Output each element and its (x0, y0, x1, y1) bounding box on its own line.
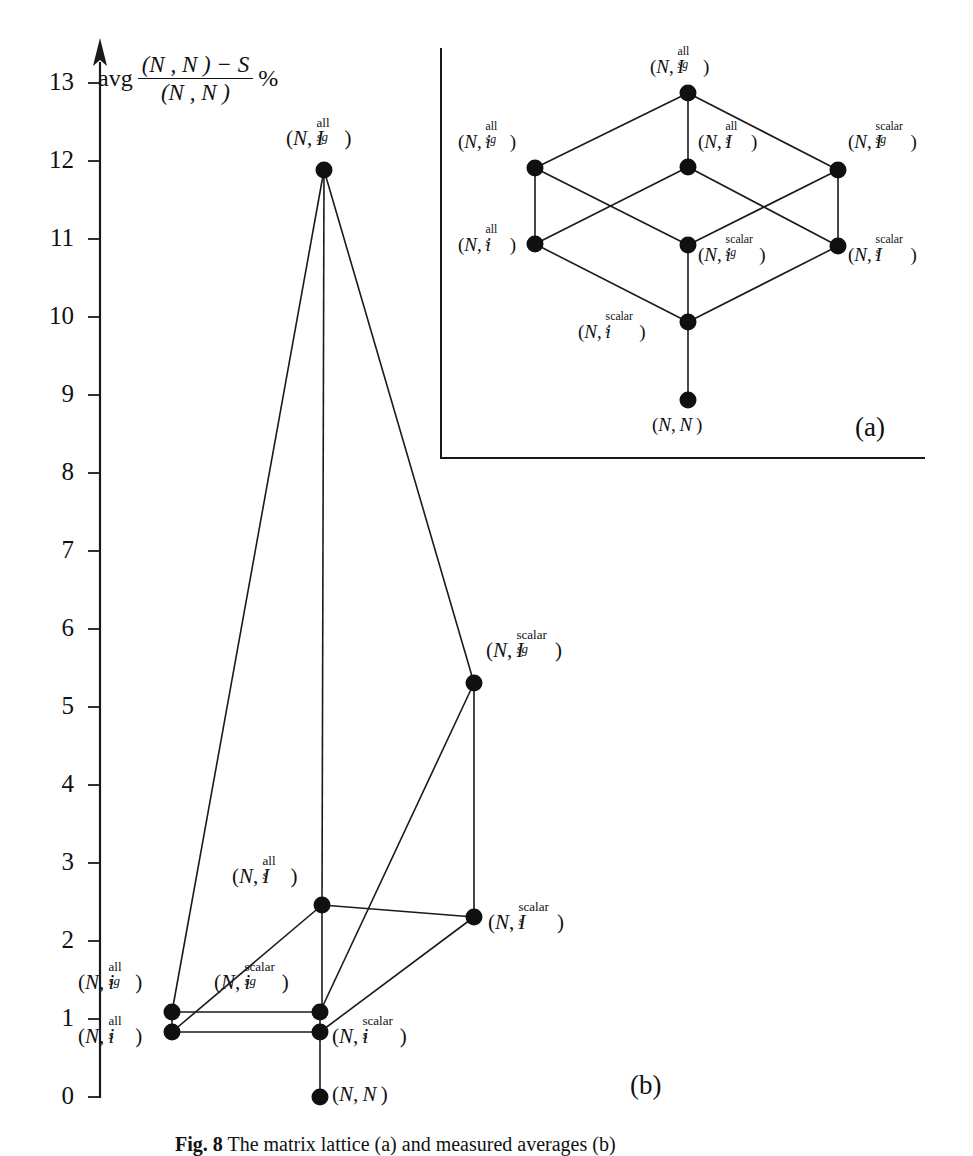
inset-label-i-sg-all: (N, iallsg ) (458, 132, 516, 151)
tick-label-3: 3 (34, 848, 74, 876)
node-I-sg-all (316, 162, 333, 179)
tick-label-2: 2 (34, 926, 74, 954)
tick-label-10: 10 (34, 302, 74, 330)
label-i-sg-all: (N, iallsg ) (78, 972, 142, 993)
inset-node-N-N (680, 392, 697, 409)
label-N-N-plot: (N, N ) (332, 1084, 388, 1105)
panel-label-b: (b) (630, 1070, 661, 1101)
label-i-s-scalar: (N, iscalars ) (332, 1026, 407, 1047)
inset-label-i-s-all: (N, ialls ) (458, 235, 516, 254)
inset-label-i-s-scalar: (N, iscalars ) (578, 322, 646, 341)
inset-label-N-N: (N, N ) (652, 415, 702, 434)
inset-node-I-sg-scalar (830, 162, 847, 179)
figure-caption: Fig. 8 The matrix lattice (a) and measur… (175, 1133, 875, 1156)
node-i-sg-all (164, 1004, 181, 1021)
inset-label-i-sg-scalar: (N, iscalarsg ) (698, 245, 766, 264)
inset-node-i-s-all (527, 236, 544, 253)
panel-label-a: (a) (855, 412, 885, 443)
y-axis-ticks (88, 83, 100, 1097)
node-I-sg-scalar (466, 675, 483, 692)
inset-label-I-s-scalar: (N, Iscalars ) (848, 245, 917, 264)
label-I-sg-scalar: (N, Iscalarsg ) (486, 640, 562, 661)
tick-label-13: 13 (34, 68, 74, 96)
tick-label-0: 0 (34, 1082, 74, 1110)
tick-label-8: 8 (34, 458, 74, 486)
label-I-s-all: (N, Ialls ) (232, 866, 297, 887)
inset-label-I-sg-scalar: (N, Iscalarsg ) (848, 132, 917, 151)
label-I-s-scalar: (N, Iscalars ) (488, 912, 564, 933)
axis-title-percent: % (258, 65, 278, 92)
axis-title-prefix: avg (98, 65, 133, 92)
y-axis-title: avg (N , N ) − S (N , N ) % (98, 52, 278, 106)
node-i-s-all (164, 1024, 181, 1041)
inset-label-I-sg-all: (N, Iallsg ) (650, 57, 709, 76)
tick-label-6: 6 (34, 614, 74, 642)
inset-node-i-s-scalar (680, 314, 697, 331)
y-axis (93, 38, 107, 1098)
node-i-sg-scalar (312, 1004, 329, 1021)
axis-title-numerator: (N , N ) − S (138, 52, 254, 79)
tick-label-9: 9 (34, 380, 74, 408)
axis-title-denominator: (N , N ) (157, 79, 234, 105)
node-N-N (312, 1089, 329, 1106)
tick-label-7: 7 (34, 536, 74, 564)
inset-node-i-sg-all (527, 160, 544, 177)
inset-a-nodes (527, 85, 847, 409)
plot-b-edges (172, 170, 474, 1097)
node-I-s-all (314, 897, 331, 914)
label-I-sg-all: (N, Iallsg ) (286, 128, 351, 149)
label-i-s-all: (N, ialls ) (78, 1026, 142, 1047)
inset-label-I-s-all: (N, Ialls ) (698, 132, 757, 151)
caption-figure-number: Fig. 8 (175, 1133, 223, 1155)
inset-node-I-s-scalar (830, 238, 847, 255)
tick-label-12: 12 (34, 146, 74, 174)
inset-node-I-s-all (680, 159, 697, 176)
tick-label-5: 5 (34, 692, 74, 720)
tick-label-1: 1 (34, 1004, 74, 1032)
axis-title-fraction: (N , N ) − S (N , N ) (138, 52, 254, 106)
inset-node-I-sg-all (680, 85, 697, 102)
label-i-sg-scalar: (N, iscalarsg ) (214, 972, 289, 993)
caption-text: The matrix lattice (a) and measured aver… (227, 1133, 615, 1155)
tick-label-11: 11 (34, 224, 74, 252)
inset-node-i-sg-scalar (680, 237, 697, 254)
node-i-s-scalar (312, 1024, 329, 1041)
tick-label-4: 4 (34, 770, 74, 798)
node-I-s-scalar (466, 909, 483, 926)
